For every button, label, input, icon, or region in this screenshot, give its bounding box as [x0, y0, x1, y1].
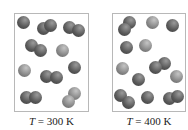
gas-molecule-atom-icon	[68, 61, 81, 74]
gas-molecule-atom-icon	[50, 71, 63, 84]
gas-molecule-atom-icon	[171, 90, 184, 103]
temperature-value: 400 K	[144, 115, 171, 127]
temperature-symbol: T	[29, 115, 35, 127]
temperature-value: 300 K	[47, 115, 74, 127]
gas-molecule-atom-icon	[120, 41, 133, 54]
gas-molecule-atom-icon	[18, 64, 31, 77]
gas-molecule-atom-icon	[44, 19, 57, 32]
gas-molecule-atom-icon	[17, 16, 30, 29]
gas-molecule-atom-icon	[146, 16, 159, 29]
gas-molecule-atom-icon	[29, 91, 42, 104]
gas-molecule-atom-icon	[56, 44, 69, 57]
equals-sign: =	[135, 115, 141, 127]
gas-molecule-atom-icon	[116, 62, 129, 75]
gas-molecule-atom-icon	[139, 39, 152, 52]
gas-molecule-atom-icon	[170, 70, 183, 83]
gas-molecule-atom-icon	[149, 61, 162, 74]
gas-molecule-atom-icon	[62, 95, 75, 108]
temperature-symbol: T	[126, 115, 132, 127]
gas-molecule-atom-icon	[72, 24, 85, 37]
gas-molecule-atom-icon	[122, 96, 135, 109]
temperature-label-300k: T = 300 K	[14, 115, 89, 127]
gas-molecule-atom-icon	[34, 44, 47, 57]
gas-molecule-atom-icon	[141, 91, 154, 104]
gas-molecule-atom-icon	[118, 23, 131, 36]
equals-sign: =	[38, 115, 44, 127]
gas-molecule-atom-icon	[132, 73, 145, 86]
gas-molecule-atom-icon	[166, 19, 179, 32]
temperature-label-400k: T = 400 K	[112, 115, 186, 127]
